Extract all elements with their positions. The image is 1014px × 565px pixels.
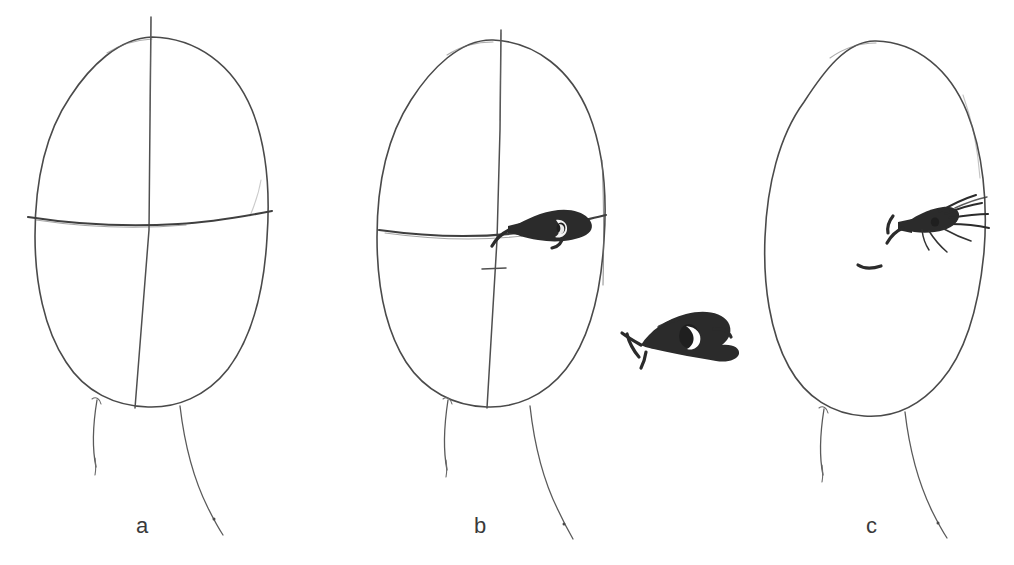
panel-b-drawing: [377, 30, 606, 539]
vertical-centerline-b: [487, 30, 501, 408]
panel-a-drawing: [28, 17, 272, 535]
panel-label-a: a: [136, 515, 148, 537]
vertical-centerline-a: [135, 17, 151, 408]
neck-lines-b: [443, 398, 573, 539]
panel-c-drawing: [765, 41, 989, 538]
horizontal-eye-line-a: [28, 211, 272, 227]
eye-detail-drawing: [622, 312, 739, 368]
head-outline-c: [765, 41, 986, 416]
nose-tick-mark-b: [482, 268, 506, 269]
nose-stroke-c: [858, 265, 881, 268]
neck-lines-a: [92, 398, 223, 535]
sketch-canvas: .pl{fill:none;stroke:#4a4a4a;stroke-widt…: [0, 0, 1014, 565]
panel-label-b: b: [474, 515, 486, 537]
eye-with-lashes-c: [887, 195, 989, 252]
panel-label-c: c: [866, 515, 877, 537]
neck-lines-c: [819, 407, 947, 538]
drawing-sheet: .pl{fill:none;stroke:#4a4a4a;stroke-widt…: [0, 0, 1014, 565]
eye-shape-b: [492, 210, 592, 248]
